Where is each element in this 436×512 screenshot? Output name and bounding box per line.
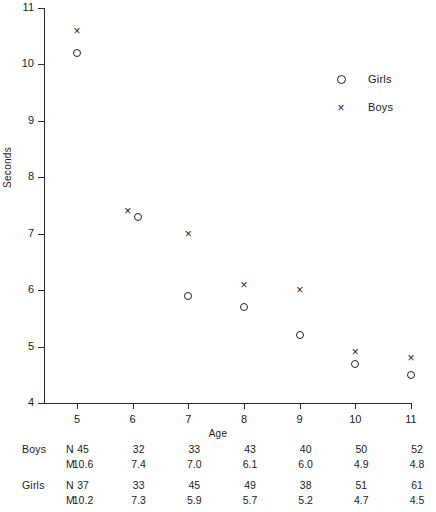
x-tick-label-6: 6 bbox=[118, 413, 148, 425]
y-tick-label-5: 5 bbox=[8, 341, 34, 352]
table-cell-m-boys-age-8: 6.1 bbox=[228, 457, 272, 471]
boys-point-age-7: × bbox=[181, 227, 195, 241]
boys-point-age-5: × bbox=[70, 24, 84, 38]
table-cell-m-boys-age-5: 10.6 bbox=[61, 457, 105, 471]
y-tick-label-box-5: 5 bbox=[8, 341, 34, 352]
y-tick-label-11: 11 bbox=[8, 2, 34, 13]
girls-point-age-6 bbox=[131, 210, 145, 224]
y-tick-label-6: 6 bbox=[8, 284, 34, 295]
girls-point-age-11 bbox=[404, 368, 418, 382]
chart-legend: Girls×Boys bbox=[334, 70, 430, 126]
x-tick-label-8: 8 bbox=[229, 413, 259, 425]
table-cell-n-boys-age-7: 33 bbox=[172, 442, 216, 456]
table-cell-n-girls-age-5: 37 bbox=[61, 478, 105, 492]
table-cell-n-girls-age-11: 61 bbox=[395, 478, 436, 492]
x-axis-line bbox=[44, 403, 412, 404]
table-cell-n-girls-age-7: 45 bbox=[172, 478, 216, 492]
x-tick-label-9: 9 bbox=[285, 413, 315, 425]
table-row-label-girls: Girls bbox=[22, 478, 45, 492]
y-tick-7 bbox=[38, 234, 44, 235]
y-tick-label-box-9: 9 bbox=[8, 115, 34, 126]
table-cell-m-boys-age-10: 4.9 bbox=[339, 457, 383, 471]
table-cell-m-boys-age-6: 7.4 bbox=[117, 457, 161, 471]
x-axis-title: Age bbox=[0, 428, 436, 439]
legend-item-boys: ×Boys bbox=[334, 98, 430, 126]
table-cell-m-girls-age-5: 10.2 bbox=[61, 493, 105, 507]
y-axis-line bbox=[44, 8, 45, 404]
y-tick-label-box-4: 4 bbox=[8, 397, 34, 408]
y-tick-5 bbox=[38, 347, 44, 348]
circle-marker bbox=[334, 73, 348, 87]
table-cell-m-girls-age-6: 7.3 bbox=[117, 493, 161, 507]
y-tick-10 bbox=[38, 64, 44, 65]
x-tick-label-5: 5 bbox=[62, 413, 92, 425]
boys-point-age-8: × bbox=[237, 278, 251, 292]
y-tick-label-box-11: 11 bbox=[8, 2, 34, 13]
table-cell-n-girls-age-8: 49 bbox=[228, 478, 272, 492]
y-tick-label-box-6: 6 bbox=[8, 284, 34, 295]
girls-point-age-10 bbox=[348, 357, 362, 371]
boys-point-age-9: × bbox=[293, 283, 307, 297]
plot-area: 4567891011 567891011 ××××××× Seconds Age… bbox=[0, 0, 436, 412]
girls-point-age-8 bbox=[237, 300, 251, 314]
table-cell-n-boys-age-5: 45 bbox=[61, 442, 105, 456]
table-cell-m-boys-age-9: 6.0 bbox=[284, 457, 328, 471]
x-tick-7 bbox=[188, 403, 189, 409]
table-cell-n-boys-age-9: 40 bbox=[284, 442, 328, 456]
y-tick-8 bbox=[38, 177, 44, 178]
legend-label-boys: Boys bbox=[368, 100, 393, 114]
girls-point-age-9 bbox=[293, 328, 307, 342]
y-tick-label-4: 4 bbox=[8, 397, 34, 408]
boys-point-age-11: × bbox=[404, 351, 418, 365]
y-tick-11 bbox=[38, 8, 44, 9]
y-tick-label-7: 7 bbox=[8, 228, 34, 239]
table-cell-m-girls-age-7: 5.9 bbox=[172, 493, 216, 507]
y-tick-label-box-10: 10 bbox=[8, 58, 34, 69]
table-cell-m-girls-age-11: 4.5 bbox=[395, 493, 436, 507]
y-tick-label-10: 10 bbox=[8, 58, 34, 69]
x-tick-6 bbox=[133, 403, 134, 409]
table-cell-n-boys-age-6: 32 bbox=[117, 442, 161, 456]
table-cell-n-boys-age-10: 50 bbox=[339, 442, 383, 456]
x-tick-5 bbox=[77, 403, 78, 409]
x-tick-label-7: 7 bbox=[173, 413, 203, 425]
table-cell-n-girls-age-6: 33 bbox=[117, 478, 161, 492]
y-tick-label-box-7: 7 bbox=[8, 228, 34, 239]
x-tick-9 bbox=[300, 403, 301, 409]
table-cell-n-boys-age-8: 43 bbox=[228, 442, 272, 456]
cross-marker: × bbox=[334, 101, 348, 115]
legend-label-girls: Girls bbox=[368, 72, 392, 86]
table-cell-n-girls-age-9: 38 bbox=[284, 478, 328, 492]
y-tick-6 bbox=[38, 290, 44, 291]
girls-point-age-5 bbox=[70, 46, 84, 60]
table-cell-m-girls-age-9: 5.2 bbox=[284, 493, 328, 507]
table-cell-m-girls-age-10: 4.7 bbox=[339, 493, 383, 507]
x-tick-8 bbox=[244, 403, 245, 409]
table-cell-m-girls-age-8: 5.7 bbox=[228, 493, 272, 507]
table-cell-n-boys-age-11: 52 bbox=[395, 442, 436, 456]
x-tick-10 bbox=[355, 403, 356, 409]
table-cell-m-boys-age-11: 4.8 bbox=[395, 457, 436, 471]
y-tick-9 bbox=[38, 121, 44, 122]
y-tick-4 bbox=[38, 403, 44, 404]
x-tick-label-11: 11 bbox=[396, 413, 426, 425]
x-tick-11 bbox=[411, 403, 412, 409]
x-tick-label-10: 10 bbox=[340, 413, 370, 425]
table-group-girls: GirlsNM3733454938516110.27.35.95.75.24.7… bbox=[0, 478, 436, 508]
table-cell-m-boys-age-7: 7.0 bbox=[172, 457, 216, 471]
scatter-chart-figure: 4567891011 567891011 ××××××× Seconds Age… bbox=[0, 0, 436, 512]
y-axis-title: Seconds bbox=[2, 147, 13, 188]
legend-item-girls: Girls bbox=[334, 70, 430, 98]
table-group-boys: BoysNM4532334340505210.67.47.06.16.04.94… bbox=[0, 442, 436, 472]
girls-point-age-7 bbox=[181, 289, 195, 303]
table-cell-n-girls-age-10: 51 bbox=[339, 478, 383, 492]
summary-data-table: BoysNM4532334340505210.67.47.06.16.04.94… bbox=[0, 442, 436, 508]
y-tick-label-9: 9 bbox=[8, 115, 34, 126]
table-row-label-boys: Boys bbox=[22, 442, 46, 456]
